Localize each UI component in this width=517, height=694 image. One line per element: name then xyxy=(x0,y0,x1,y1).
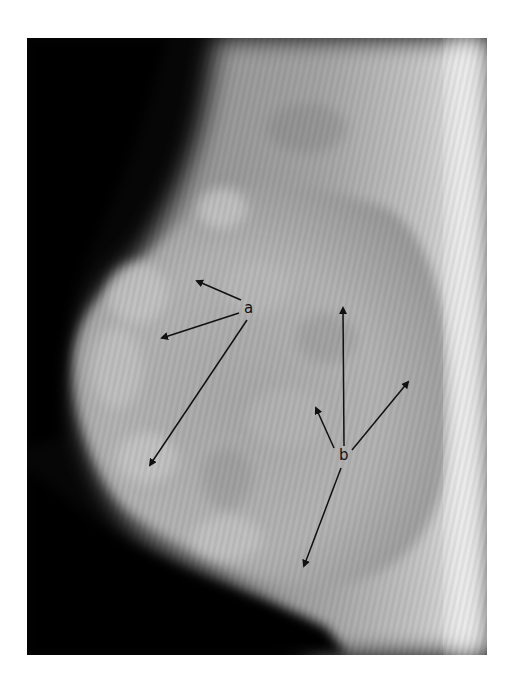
radiograph-drawing xyxy=(27,38,487,655)
annotation-label-a: a xyxy=(244,301,253,316)
annotation-label-b: b xyxy=(339,448,349,463)
mammogram-image xyxy=(27,38,487,655)
